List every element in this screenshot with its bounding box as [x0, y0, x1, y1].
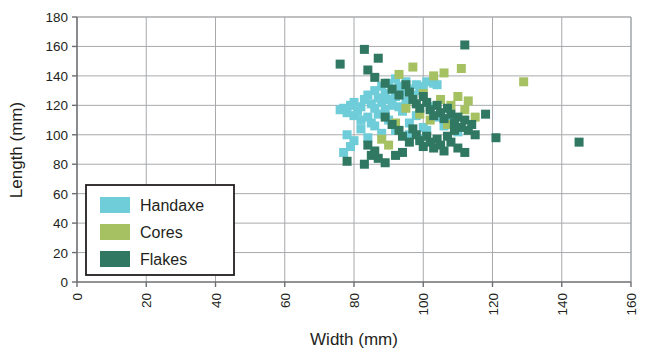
data-point: [395, 91, 404, 100]
data-point: [433, 80, 442, 89]
y-tick-label: 40: [53, 216, 68, 231]
data-point: [374, 154, 383, 163]
data-point: [356, 124, 365, 133]
data-point: [395, 70, 404, 79]
data-point: [440, 68, 449, 77]
data-point: [377, 135, 386, 144]
y-tick-label: 120: [45, 98, 68, 113]
data-point: [360, 45, 369, 54]
data-point: [346, 142, 355, 151]
data-point: [401, 104, 410, 113]
y-tick-label: 160: [45, 39, 68, 54]
x-tick-label: 40: [209, 293, 224, 308]
chart-legend: HandaxeCoresFlakes: [86, 185, 234, 275]
y-tick-labels: 020406080100120140160180: [45, 10, 77, 290]
chart-canvas: 020406080100120140160180 020406080100120…: [0, 0, 654, 354]
x-tick-labels: 020406080100120140160: [70, 282, 639, 316]
x-tick-label: 100: [416, 293, 431, 316]
data-point: [464, 96, 473, 105]
x-axis-title: Width (mm): [310, 330, 398, 349]
data-point: [460, 148, 469, 157]
data-point: [440, 146, 449, 155]
data-points-layer: [336, 40, 584, 168]
data-point: [408, 63, 417, 72]
legend-swatch-flakes: [100, 251, 130, 267]
legend-label-cores: Cores: [140, 224, 183, 241]
data-point: [391, 151, 400, 160]
data-point: [460, 40, 469, 49]
x-tick-label: 0: [70, 293, 85, 301]
x-tick-label: 60: [278, 293, 293, 308]
data-point: [360, 160, 369, 169]
legend-label-flakes: Flakes: [140, 251, 187, 268]
data-point: [374, 54, 383, 63]
y-tick-label: 0: [60, 275, 68, 290]
data-point: [450, 126, 459, 135]
legend-swatch-cores: [100, 224, 130, 240]
x-tick-label: 80: [347, 293, 362, 308]
data-point: [453, 92, 462, 101]
data-point: [336, 60, 345, 69]
y-tick-label: 20: [53, 246, 68, 261]
scatter-chart: 020406080100120140160180 020406080100120…: [0, 0, 654, 354]
data-point: [491, 133, 500, 142]
x-tick-label: 140: [555, 293, 570, 316]
legend-label-handaxe: Handaxe: [140, 197, 204, 214]
x-tick-label: 120: [486, 293, 501, 316]
x-tick-label: 160: [624, 293, 639, 316]
data-point: [481, 110, 490, 119]
y-tick-label: 180: [45, 10, 68, 25]
data-point: [370, 73, 379, 82]
y-tick-label: 100: [45, 128, 68, 143]
data-point: [457, 64, 466, 73]
data-point: [429, 71, 438, 80]
y-tick-label: 60: [53, 187, 68, 202]
y-tick-label: 140: [45, 69, 68, 84]
y-axis-title: Length (mm): [7, 102, 26, 198]
y-tick-label: 80: [53, 157, 68, 172]
data-point: [343, 157, 352, 166]
data-point: [467, 120, 476, 129]
x-tick-label: 20: [139, 293, 154, 308]
data-point: [519, 77, 528, 86]
data-point: [575, 138, 584, 147]
legend-swatch-handaxe: [100, 197, 130, 213]
data-point: [471, 130, 480, 139]
